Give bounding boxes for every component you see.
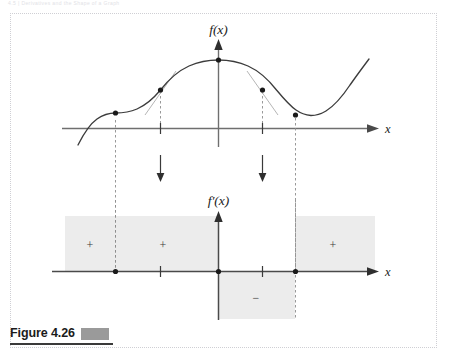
point-inflection-left xyxy=(158,87,163,92)
point-local-minimum xyxy=(293,112,298,117)
point-inflection-right xyxy=(260,87,265,92)
figure-caption-rule xyxy=(10,343,113,345)
point-local-maximum xyxy=(216,57,221,62)
point-flat-inflection xyxy=(113,110,118,115)
sign-region-positive-left xyxy=(115,216,218,271)
bottom-y-axis-label: f′(x) xyxy=(208,193,230,208)
function-curve xyxy=(78,59,369,145)
figure-drawing: f(x) x f′(x) x + + + − xyxy=(0,0,449,362)
figure-caption-label: Figure 4.26 xyxy=(10,326,81,341)
top-x-axis-label: x xyxy=(384,122,391,136)
top-x-axis xyxy=(62,124,379,132)
connector-arrow-left xyxy=(157,155,165,182)
figure-container: 4.5 | Derivatives and the Shape of a Gra… xyxy=(0,0,449,362)
connector-arrow-right xyxy=(259,155,267,182)
top-y-axis xyxy=(214,39,222,147)
figure-caption: Figure 4.26 xyxy=(10,326,109,341)
derivative-sign-shading xyxy=(65,216,375,319)
sign-label-plus-far-left: + xyxy=(87,238,94,252)
zero-point-origin xyxy=(216,269,221,274)
zero-point-left xyxy=(113,269,118,274)
sign-label-minus: − xyxy=(253,291,260,305)
bottom-x-axis-label: x xyxy=(384,265,391,279)
figure-caption-chip xyxy=(81,328,109,340)
sign-label-plus-left: + xyxy=(160,238,167,252)
zero-point-right xyxy=(293,269,298,274)
top-curve-points xyxy=(113,57,298,117)
sign-label-plus-right: + xyxy=(330,238,337,252)
top-y-axis-label: f(x) xyxy=(209,22,228,37)
